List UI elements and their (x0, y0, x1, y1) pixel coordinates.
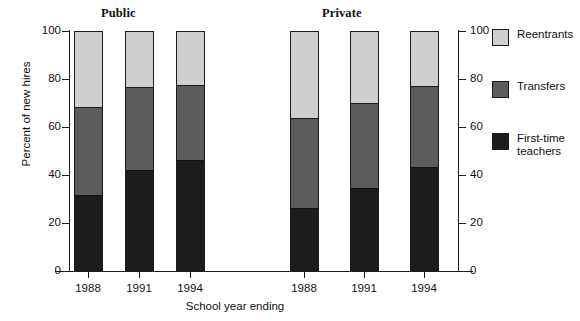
bar-1991-private[interactable] (350, 31, 379, 271)
bar-segment-transfers (411, 87, 438, 168)
bar-segment-reentrants (291, 32, 318, 119)
x-tick-label-3: 1988 (291, 282, 317, 294)
y-tick-mark-60 (62, 127, 69, 128)
bar-1988-private[interactable] (290, 31, 319, 271)
x-tick-mark-5 (424, 272, 425, 278)
y-tick-label-40: 40 (48, 168, 61, 180)
bar-segment-transfers (291, 119, 318, 209)
y-tick-mark-100 (62, 31, 69, 32)
legend-item-transfers[interactable]: Transfers (492, 80, 565, 98)
y2-tick-mark-60 (459, 127, 466, 128)
stacked-bar-chart: Public Private Percent of new hires Scho… (0, 0, 580, 321)
y2-tick-mark-40 (459, 175, 466, 176)
y2-tick-mark-0 (459, 271, 466, 272)
legend-label-transfers: Transfers (517, 80, 565, 93)
x-tick-mark-1 (139, 272, 140, 278)
y-tick-label-80: 80 (48, 72, 61, 84)
x-tick-mark-4 (364, 272, 365, 278)
legend-label-reentrants: Reentrants (517, 28, 573, 41)
bar-segment-transfers (351, 104, 378, 189)
y2-tick-mark-100 (459, 31, 466, 32)
x-tick-label-2: 1994 (177, 282, 203, 294)
y-axis-line-left (69, 30, 70, 272)
y2-tick-label-100: 100 (470, 24, 489, 36)
x-tick-label-4: 1991 (351, 282, 377, 294)
bar-1988-public[interactable] (74, 31, 103, 271)
y-tick-label-20: 20 (48, 216, 61, 228)
group-title-private: Private (322, 6, 362, 21)
x-tick-label-0: 1988 (75, 282, 101, 294)
y2-tick-label-40: 40 (470, 168, 483, 180)
legend-label-first-time-teachers: First-time teachers (517, 132, 565, 157)
bar-segment-transfers (126, 88, 153, 170)
bar-1991-public[interactable] (125, 31, 154, 271)
bar-segment-reentrants (177, 32, 204, 86)
y-tick-label-0: 0 (55, 264, 61, 276)
bar-segment-first-time-teachers (351, 189, 378, 271)
bar-segment-first-time-teachers (75, 196, 102, 271)
legend-swatch-first-time-teachers (492, 133, 509, 150)
y-tick-mark-40 (62, 175, 69, 176)
y2-tick-mark-20 (459, 223, 466, 224)
legend-item-first-time-teachers[interactable]: First-time teachers (492, 132, 565, 157)
x-tick-mark-0 (88, 272, 89, 278)
x-tick-mark-3 (304, 272, 305, 278)
bar-1994-public[interactable] (176, 31, 205, 271)
x-tick-mark-2 (190, 272, 191, 278)
y2-tick-mark-80 (459, 79, 466, 80)
legend-swatch-transfers (492, 81, 509, 98)
bar-segment-first-time-teachers (291, 209, 318, 271)
bar-segment-reentrants (126, 32, 153, 88)
y2-tick-label-0: 0 (470, 264, 476, 276)
y-axis-title: Percent of new hires (20, 24, 32, 204)
group-title-public: Public (101, 6, 136, 21)
y-tick-mark-80 (62, 79, 69, 80)
y2-tick-label-20: 20 (470, 216, 483, 228)
y-tick-mark-0 (62, 271, 69, 272)
y-tick-label-100: 100 (42, 24, 61, 36)
x-axis-title: School year ending (0, 300, 470, 312)
y2-tick-label-60: 60 (470, 120, 483, 132)
y-tick-label-60: 60 (48, 120, 61, 132)
x-tick-label-1: 1991 (126, 282, 152, 294)
x-axis-line (55, 271, 473, 272)
bar-segment-first-time-teachers (126, 171, 153, 271)
bar-segment-reentrants (75, 32, 102, 108)
x-tick-label-5: 1994 (411, 282, 437, 294)
bar-segment-first-time-teachers (411, 168, 438, 271)
bar-segment-first-time-teachers (177, 161, 204, 271)
y-tick-mark-20 (62, 223, 69, 224)
legend-swatch-reentrants (492, 29, 509, 46)
bar-segment-transfers (177, 86, 204, 161)
bar-segment-reentrants (351, 32, 378, 104)
legend-item-reentrants[interactable]: Reentrants (492, 28, 573, 46)
bar-1994-private[interactable] (410, 31, 439, 271)
bar-segment-reentrants (411, 32, 438, 87)
bar-segment-transfers (75, 108, 102, 195)
y2-tick-label-80: 80 (470, 72, 483, 84)
y-axis-line-right (458, 30, 459, 272)
